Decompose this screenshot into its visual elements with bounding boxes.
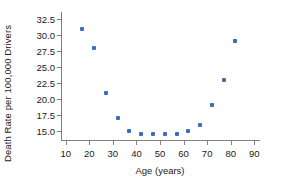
- x-tick-label-90: 90: [249, 148, 260, 159]
- x-tick-mark: [113, 141, 114, 145]
- y-tick-label: 17.5: [37, 110, 56, 121]
- y-tick-mark: [57, 35, 61, 36]
- y-tick-mark: [57, 19, 61, 20]
- y-tick-mark: [57, 83, 61, 84]
- y-tick-label: 20.0: [37, 94, 56, 105]
- data-point: [222, 78, 226, 82]
- y-tick-label: 25.0: [37, 62, 56, 73]
- data-point: [210, 103, 214, 107]
- x-tick-mark: [66, 141, 67, 145]
- data-point: [233, 39, 237, 43]
- x-tick-mark: [254, 141, 255, 145]
- scatter-plot-figure: Death Rate per 100,000 Drivers 15.017.52…: [0, 0, 285, 187]
- data-point: [127, 129, 131, 133]
- y-tick-mark: [57, 115, 61, 116]
- data-point: [116, 116, 120, 120]
- y-tick-mark: [57, 131, 61, 132]
- x-tick-label-10: 10: [60, 148, 71, 159]
- x-tick-label-40: 40: [131, 148, 142, 159]
- x-tick-label-20: 20: [84, 148, 95, 159]
- x-tick-mark: [207, 141, 208, 145]
- x-tick-mark: [184, 141, 185, 145]
- x-tick-label-70: 70: [202, 148, 213, 159]
- data-point: [175, 132, 179, 136]
- x-tick-label-50: 50: [155, 148, 166, 159]
- x-tick-mark: [136, 141, 137, 145]
- y-tick-label: 30.0: [37, 30, 56, 41]
- x-tick-label-30: 30: [108, 148, 119, 159]
- data-point: [186, 129, 190, 133]
- x-tick-mark: [231, 141, 232, 145]
- data-point: [139, 132, 143, 136]
- x-tick-label-80: 80: [225, 148, 236, 159]
- y-tick-label: 32.5: [37, 14, 56, 25]
- data-point: [92, 46, 96, 50]
- y-tick-mark: [57, 51, 61, 52]
- x-tick-label-60: 60: [178, 148, 189, 159]
- data-point: [80, 27, 84, 31]
- y-tick-label: 27.5: [37, 46, 56, 57]
- y-tick-mark: [57, 67, 61, 68]
- x-tick-mark: [89, 141, 90, 145]
- data-point: [151, 132, 155, 136]
- y-axis-title: Death Rate per 100,000 Drivers: [0, 0, 14, 187]
- data-point: [104, 91, 108, 95]
- y-tick-mark: [57, 99, 61, 100]
- x-tick-mark: [160, 141, 161, 145]
- y-tick-label: 15.0: [37, 126, 56, 137]
- y-tick-label: 22.5: [37, 78, 56, 89]
- x-axis-title: Age (years): [60, 165, 260, 176]
- y-axis-line: [61, 12, 62, 141]
- data-point: [163, 132, 167, 136]
- plot-area: 15.017.520.022.525.027.530.032.5 1020304…: [61, 12, 259, 140]
- data-point: [198, 123, 202, 127]
